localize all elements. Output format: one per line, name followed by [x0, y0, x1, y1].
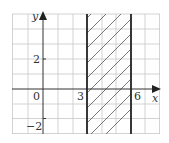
- y-tick-label-2: 2: [33, 53, 40, 66]
- axes: [12, 17, 156, 134]
- y-tick-label-minus2: −2: [26, 120, 42, 133]
- origin-label: 0: [33, 90, 40, 103]
- y-axis-label: y: [31, 10, 39, 23]
- coordinate-plane: y x 2 0 3 6 −2: [0, 0, 169, 143]
- y-axis-arrow-icon: [39, 11, 47, 20]
- x-axis-label: x: [152, 92, 159, 105]
- x-tick-label-6: 6: [134, 90, 141, 103]
- grid: [12, 14, 160, 134]
- x-tick-label-3: 3: [77, 90, 84, 103]
